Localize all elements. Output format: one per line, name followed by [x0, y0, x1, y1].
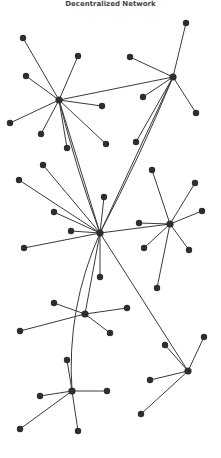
leaf-edge — [152, 170, 170, 224]
leaf-node — [138, 411, 144, 417]
leaf-edge — [141, 371, 188, 414]
leaf-edge — [150, 371, 188, 380]
leaf-edge — [85, 314, 110, 333]
leaf-edge — [10, 100, 59, 123]
hub-link-edge — [100, 224, 170, 233]
leaf-node — [127, 54, 133, 60]
leaf-node — [154, 285, 160, 291]
hub-node — [55, 96, 62, 103]
leaf-edge — [40, 391, 72, 396]
leaf-node — [97, 274, 103, 280]
leaf-edge — [59, 56, 78, 100]
leaf-node — [107, 330, 113, 336]
leaf-edge — [26, 76, 59, 100]
leaf-edge — [23, 38, 59, 100]
leaf-node — [140, 94, 146, 100]
leaf-node — [68, 228, 74, 234]
hub-link-edge — [100, 77, 173, 233]
leaf-node — [103, 141, 109, 147]
leaf-node — [38, 131, 44, 137]
leaf-node — [75, 428, 81, 434]
leaf-edge — [20, 314, 85, 331]
leaf-node — [199, 208, 205, 214]
hub-node — [68, 387, 75, 394]
leaf-edge — [72, 391, 78, 431]
leaf-node — [16, 177, 22, 183]
leaf-edge — [170, 224, 189, 250]
leaf-edge — [170, 183, 195, 224]
leaf-node — [147, 377, 153, 383]
leaf-edge — [130, 57, 173, 77]
leaf-node — [201, 334, 207, 340]
hub-node — [166, 220, 173, 227]
leaf-edge — [41, 100, 59, 134]
leaf-node — [64, 145, 70, 151]
leaf-edge — [59, 100, 67, 148]
leaf-edge — [43, 165, 100, 233]
leaf-node — [17, 328, 23, 334]
leaf-node — [133, 139, 139, 145]
leaf-node — [23, 73, 29, 79]
leaf-edge — [165, 345, 188, 371]
hub-node — [169, 73, 176, 80]
leaf-edge — [188, 337, 204, 371]
hub-link-edge — [85, 233, 100, 314]
leaf-edge — [170, 211, 202, 224]
leaf-node — [141, 245, 147, 251]
hub-link-edge — [59, 100, 100, 233]
edges-layer — [10, 23, 204, 431]
leaf-node — [124, 305, 130, 311]
leaf-edge — [173, 23, 186, 77]
hub-node — [81, 310, 88, 317]
leaf-edge — [20, 391, 72, 429]
leaf-node — [104, 388, 110, 394]
leaf-node — [75, 53, 81, 59]
leaf-edge — [136, 77, 173, 142]
leaf-node — [40, 162, 46, 168]
hub-node — [96, 229, 103, 236]
leaf-node — [193, 110, 199, 116]
leaf-node — [192, 180, 198, 186]
leaf-node — [186, 247, 192, 253]
leaf-node — [64, 357, 70, 363]
leaf-edge — [139, 223, 170, 224]
nodes-layer — [7, 20, 207, 434]
leaf-node — [20, 35, 26, 41]
leaf-edge — [24, 233, 100, 248]
leaf-node — [51, 209, 57, 215]
leaf-edge — [173, 77, 196, 113]
leaf-edge — [59, 100, 102, 106]
leaf-node — [21, 245, 27, 251]
leaf-edge — [54, 303, 85, 314]
network-graph — [0, 0, 221, 458]
leaf-node — [101, 194, 107, 200]
leaf-node — [7, 120, 13, 126]
leaf-node — [37, 393, 43, 399]
leaf-edge — [19, 180, 100, 233]
leaf-node — [183, 20, 189, 26]
leaf-node — [136, 220, 142, 226]
leaf-node — [149, 167, 155, 173]
leaf-edge — [85, 308, 127, 314]
leaf-node — [17, 426, 23, 432]
leaf-node — [51, 300, 57, 306]
hub-link-edge — [100, 233, 188, 371]
leaf-node — [162, 342, 168, 348]
hub-node — [184, 367, 191, 374]
leaf-node — [99, 103, 105, 109]
